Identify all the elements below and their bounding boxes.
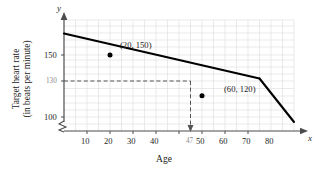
y-axis-title-line1: Target heart rate — [11, 17, 22, 141]
x-tick-label-80: 80 — [265, 137, 274, 146]
x-tick-label-70: 70 — [242, 137, 251, 146]
data-point-20-150[interactable] — [108, 53, 113, 58]
y-axis-title: Target heart rate (in beats per minute) — [2, 16, 42, 142]
trend-line-extension — [260, 79, 295, 123]
y-tick-label-150: 150 — [44, 51, 57, 60]
trend-line — [64, 34, 260, 79]
y-tick-label-100: 100 — [44, 113, 57, 122]
heart-rate-line-chart: Target heart rate (in beats per minute) … — [0, 0, 319, 176]
guide-lines — [64, 81, 191, 126]
x-axis-title: Age — [156, 155, 172, 165]
y-axis-variable-label: y — [57, 4, 61, 13]
data-point-label-60-120: (60, 120) — [224, 85, 256, 94]
chart-gridlines — [64, 20, 294, 131]
x-axis-variable-label: x — [308, 134, 312, 143]
x-tick-label-20: 20 — [104, 137, 113, 146]
x-tick-label-60: 60 — [219, 137, 228, 146]
y-axis-arrowhead — [61, 12, 68, 20]
x-tick-label-10: 10 — [81, 137, 90, 146]
x-tick-label-30: 30 — [127, 137, 136, 146]
y-tick-label-130: 130 — [46, 78, 57, 85]
x-tick-label-40: 40 — [150, 137, 159, 146]
data-point-60-120[interactable] — [200, 93, 205, 98]
x-axis-arrowhead — [300, 128, 308, 134]
y-axis-title-line2: (in beats per minute) — [22, 17, 33, 141]
y-axis-break-icon — [59, 121, 66, 132]
chart-canvas — [0, 0, 319, 176]
data-point-label-20-150: (20, 150) — [120, 41, 152, 50]
x-tick-label-47: 47 — [186, 138, 193, 145]
x-tick-label-50: 50 — [196, 137, 205, 146]
